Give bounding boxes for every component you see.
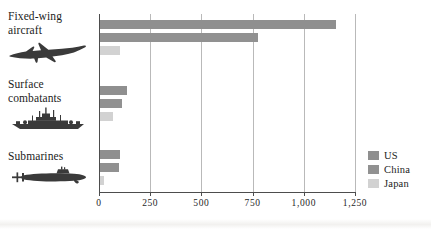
warship-icon — [8, 107, 94, 135]
x-axis-tick — [253, 192, 254, 196]
submarine-icon — [8, 166, 94, 192]
gridline — [355, 14, 356, 192]
category-label-submarines: Submarines — [8, 150, 94, 164]
category-label-line1: Surface — [8, 78, 44, 90]
x-axis-line — [99, 192, 355, 193]
x-axis-tick — [355, 192, 356, 196]
category-label-line1: Submarines — [8, 150, 63, 162]
bar-surface-combatants-us — [100, 86, 127, 95]
bar-fixed-wing-aircraft-china — [100, 33, 258, 42]
bar-surface-combatants-china — [100, 99, 122, 108]
bar-surface-combatants-japan — [100, 112, 113, 121]
fighter-jet-icon — [8, 39, 94, 69]
page-edge-shadow — [0, 219, 431, 229]
x-axis-tick-label: 1,250 — [343, 198, 367, 208]
gridline — [304, 14, 305, 192]
x-axis-tick — [150, 192, 151, 196]
legend-label-japan: Japan — [384, 178, 409, 189]
x-axis-tick — [99, 192, 100, 196]
bar-submarines-us — [100, 150, 120, 159]
x-axis-tick-label: 0 — [96, 198, 101, 208]
x-axis-tick-label: 750 — [245, 198, 261, 208]
legend-item-us[interactable]: US — [368, 149, 410, 162]
category-label-line1: Fixed-wing — [8, 10, 62, 22]
bar-chart: Fixed-wing aircraft Surface combatants — [0, 0, 431, 229]
bar-submarines-japan — [100, 176, 104, 185]
x-axis-tick-label: 250 — [142, 198, 158, 208]
bar-fixed-wing-aircraft-japan — [100, 46, 120, 55]
legend-item-china[interactable]: China — [368, 163, 410, 176]
legend-swatch-japan — [368, 179, 379, 188]
x-axis-tick-label: 500 — [193, 198, 209, 208]
x-axis-tick-label: 1,000 — [292, 198, 316, 208]
category-label-surface-combatants: Surface combatants — [8, 78, 94, 105]
legend: US China Japan — [368, 149, 410, 191]
legend-label-us: US — [384, 150, 398, 161]
category-group-fixed-wing-aircraft: Fixed-wing aircraft — [8, 10, 94, 69]
category-group-submarines: Submarines — [8, 150, 94, 192]
category-label-line2: combatants — [8, 92, 61, 104]
legend-swatch-china — [368, 165, 379, 174]
plot-area — [99, 14, 355, 192]
category-label-fixed-wing-aircraft: Fixed-wing aircraft — [8, 10, 94, 37]
legend-item-japan[interactable]: Japan — [368, 177, 410, 190]
bar-submarines-china — [100, 163, 119, 172]
x-axis-tick — [304, 192, 305, 196]
legend-label-china: China — [384, 164, 410, 175]
x-axis-tick — [201, 192, 202, 196]
bar-fixed-wing-aircraft-us — [100, 20, 336, 29]
category-label-line2: aircraft — [8, 24, 42, 36]
category-group-surface-combatants: Surface combatants — [8, 78, 94, 135]
legend-swatch-us — [368, 151, 379, 160]
